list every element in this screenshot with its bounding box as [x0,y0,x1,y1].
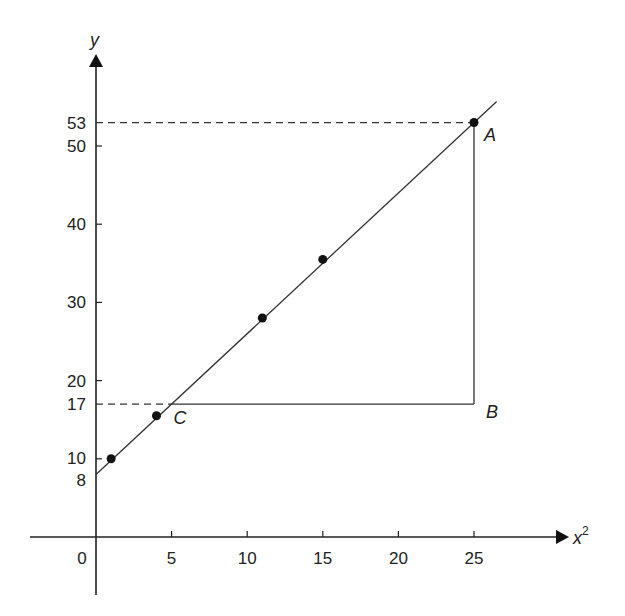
y-tick-label: 17 [67,395,86,414]
x-tick-label: 0 [77,549,86,568]
x-tick-label: 10 [238,549,257,568]
data-point [258,314,267,323]
x-tick-label: 25 [465,549,484,568]
y-tick-label: 40 [67,215,86,234]
point-label-b: B [486,402,498,422]
x-axis-label: x2 [572,524,589,548]
y-tick-label: 30 [67,293,86,312]
point-labels: ABC [174,125,498,429]
point-label-c: C [174,408,188,428]
y-axis-arrow-icon [89,54,103,67]
data-point [152,411,161,420]
y-tick-label: 50 [67,137,86,156]
x-tick-label: 20 [389,549,408,568]
y-tick-label: 20 [67,372,86,391]
guides [96,123,474,405]
x-tick-label: 5 [167,549,176,568]
data-point [318,255,327,264]
data-point [470,118,479,127]
y-tick-label: 8 [77,471,86,490]
y-tick-label: 10 [67,449,86,468]
chart: 0510152025 810172030405053 ABC y x2 [0,0,625,616]
point-label-a: A [483,125,496,145]
y-axis-label: y [88,30,100,50]
y-tick-label: 53 [67,114,86,133]
x-axis-arrow-icon [556,530,569,544]
data-point [107,454,116,463]
x-tick-label: 15 [313,549,332,568]
